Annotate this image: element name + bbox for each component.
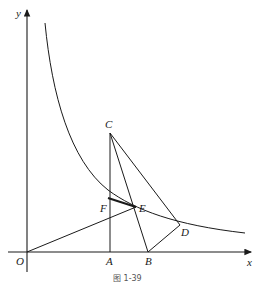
segment-cb	[110, 133, 148, 252]
segment-oe	[27, 207, 136, 252]
label-b: B	[145, 255, 152, 267]
label-y: y	[15, 7, 21, 19]
label-c: C	[105, 118, 113, 130]
figure-caption: 图 1-39	[113, 274, 142, 283]
label-d: D	[180, 226, 189, 238]
segment-bd	[148, 225, 180, 252]
label-a: A	[105, 255, 113, 267]
geometry-figure: y x O A B C D E F 图 1-39	[0, 0, 257, 284]
label-x: x	[246, 256, 252, 268]
label-f: F	[99, 202, 107, 214]
label-e: E	[138, 202, 146, 214]
label-o: O	[16, 255, 24, 267]
